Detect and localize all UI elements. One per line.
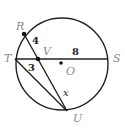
point-O-dot <box>59 61 63 65</box>
label-S: S <box>113 52 121 65</box>
label-TV-length: 3 <box>28 62 35 73</box>
label-U: U <box>73 112 83 125</box>
label-VU-length: x <box>63 87 69 98</box>
label-T: T <box>4 52 13 65</box>
point-V-dot <box>36 57 40 61</box>
segment-TU <box>15 59 67 111</box>
label-R: R <box>15 20 24 33</box>
diagram-canvas: R T V S O U 4 8 3 x <box>0 0 125 129</box>
label-O: O <box>66 65 75 78</box>
circle-chords-diagram: R T V S O U 4 8 3 x <box>0 0 125 129</box>
label-V: V <box>43 45 52 58</box>
label-RV-length: 4 <box>32 35 39 46</box>
label-VS-length: 8 <box>72 46 79 57</box>
